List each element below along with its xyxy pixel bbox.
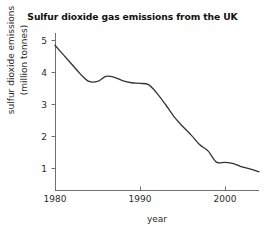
y-tick-label-5: 5 <box>41 36 47 46</box>
y-tick-label-2: 2 <box>41 132 47 142</box>
data-series-line <box>55 45 259 171</box>
y-tick-label-4: 4 <box>41 68 47 78</box>
x-tick-label-1990: 1990 <box>129 194 152 204</box>
y-axis-ticks <box>52 41 56 169</box>
y-tick-label-3: 3 <box>41 100 47 110</box>
chart-container: Sulfur dioxide gas emissions from the UK… <box>0 0 265 235</box>
plot-area: 5 4 3 2 1 1980 1990 2000 <box>0 0 265 235</box>
x-tick-label-1980: 1980 <box>44 194 67 204</box>
y-tick-label-1: 1 <box>41 164 47 174</box>
x-axis-ticks <box>56 187 226 191</box>
x-tick-label-2000: 2000 <box>214 194 237 204</box>
